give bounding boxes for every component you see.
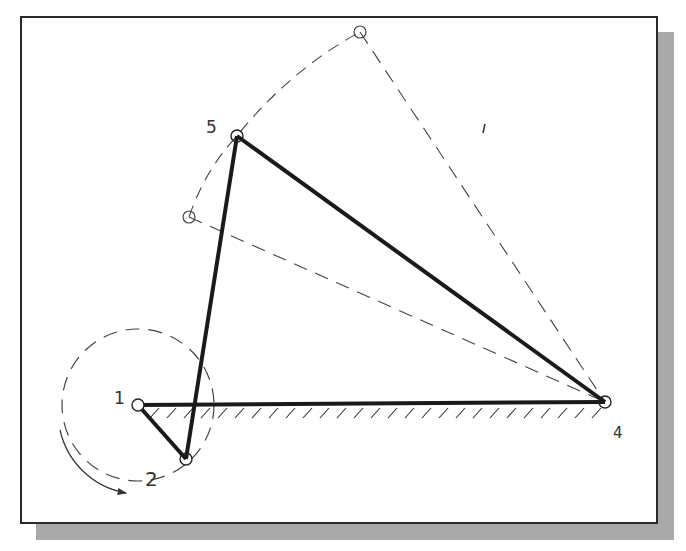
joint-4-label: 4 <box>613 424 623 442</box>
crank-link <box>138 405 186 459</box>
alt-rocker-mid <box>189 217 605 402</box>
linkage-diagram: 1 2 4 5 <box>0 0 686 551</box>
coupler-link <box>186 136 237 459</box>
joint-5-label: 5 <box>206 117 217 137</box>
stray-mark <box>483 124 485 133</box>
ground-hatching <box>150 408 601 418</box>
rocker-link <box>237 136 605 402</box>
joint-1-label: 1 <box>114 388 125 408</box>
alt-rocker-top <box>360 32 605 402</box>
rotation-arrow <box>60 430 126 493</box>
joint-1-circle-icon <box>132 399 144 411</box>
joint-2-label: 2 <box>145 467 158 491</box>
ground-link <box>138 402 605 405</box>
